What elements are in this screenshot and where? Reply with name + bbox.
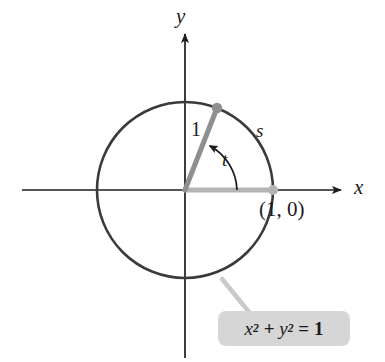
unit-circle-figure: y x 1 t s (1, 0) x2 + y2 = 1 <box>0 0 385 362</box>
unit-point-marker <box>268 185 278 195</box>
arc-length-label: s <box>256 121 263 140</box>
equation-value: 1 <box>314 318 324 340</box>
equation-callout-text: x2 + y2 = 1 <box>218 311 350 346</box>
equation-var-x: x <box>245 318 253 340</box>
equation-plus: + <box>259 318 279 340</box>
figure-canvas <box>0 0 385 362</box>
equation-equals: = <box>294 318 314 340</box>
radius-segment <box>185 108 217 190</box>
radius-length-label: 1 <box>191 119 201 139</box>
terminal-point-marker <box>212 103 222 113</box>
x-axis-label: x <box>354 177 363 198</box>
unit-point-label: (1, 0) <box>259 199 305 220</box>
equation-callout-box: x2 + y2 = 1 <box>218 311 350 346</box>
equation-var-y: y <box>279 318 287 340</box>
angle-label: t <box>222 150 227 169</box>
callout-leader-line <box>222 279 249 312</box>
y-axis-label: y <box>176 6 185 27</box>
